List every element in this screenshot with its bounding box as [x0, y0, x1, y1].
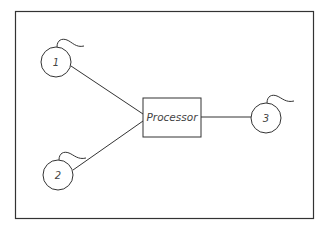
edge-1-processor [71, 66, 143, 114]
processor-label: Processor [147, 111, 199, 123]
node-3-label: 3 [263, 113, 269, 124]
node-1[interactable]: 1 [41, 39, 84, 77]
diagram-canvas: Processor 1 2 3 [0, 0, 326, 237]
node-2-label: 2 [55, 170, 61, 181]
antenna-icon [59, 152, 86, 160]
node-1-label: 1 [53, 57, 59, 68]
antenna-icon [57, 39, 84, 47]
processor-box[interactable]: Processor [143, 98, 201, 137]
edge-2-processor [73, 121, 143, 170]
antenna-icon [267, 95, 294, 103]
node-2[interactable]: 2 [43, 152, 86, 190]
node-3[interactable]: 3 [251, 95, 294, 133]
